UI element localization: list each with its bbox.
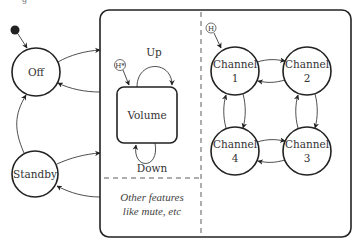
- caption-fragment: g: [22, 0, 27, 4]
- channel4-to-channel3-arrow: [257, 140, 285, 142]
- history-to-channel1-arrow: [214, 33, 221, 48]
- state-standby-label: Standby: [13, 168, 57, 180]
- state-diagram: g Off Standby H* Volume Up Down Other fe…: [0, 0, 362, 246]
- other-features-line2: like mute, etc: [123, 205, 181, 217]
- svg-text:Channel: Channel: [213, 58, 258, 70]
- state-channel-1[interactable]: Channel 1: [211, 47, 259, 95]
- state-standby[interactable]: Standby: [12, 151, 58, 197]
- svg-text:Channel: Channel: [285, 58, 330, 70]
- initial-state-dot-icon: [11, 26, 20, 35]
- channel1-to-channel4-arrow: [243, 94, 245, 128]
- svg-text:Channel: Channel: [213, 138, 258, 150]
- state-volume[interactable]: Volume: [117, 87, 177, 143]
- history-to-volume-arrow: [123, 70, 129, 85]
- channel3-to-channel2-arrow: [296, 95, 298, 128]
- svg-text:4: 4: [232, 152, 239, 164]
- standby-to-on-arrow: [57, 153, 100, 164]
- svg-text:H*: H*: [115, 62, 125, 70]
- svg-text:H: H: [208, 25, 214, 33]
- volume-down-loop-arrow: [136, 143, 156, 164]
- svg-text:3: 3: [304, 152, 311, 164]
- up-transition-label: Up: [146, 46, 162, 58]
- svg-text:2: 2: [304, 72, 311, 84]
- off-to-on-arrow: [58, 50, 100, 62]
- state-channel-3[interactable]: Channel 3: [283, 127, 331, 175]
- channel3-to-channel4-arrow: [258, 160, 285, 162]
- history-shallow-marker: H: [206, 23, 216, 33]
- state-off-label: Off: [28, 66, 46, 78]
- channel4-to-channel1-arrow: [224, 95, 226, 128]
- channel1-to-channel2-arrow: [257, 60, 285, 62]
- other-features-line1: Other features: [120, 191, 183, 203]
- channel2-to-channel1-arrow: [258, 80, 285, 82]
- state-channel-2[interactable]: Channel 2: [283, 47, 331, 95]
- state-volume-label: Volume: [126, 109, 166, 121]
- on-to-off-arrow: [58, 83, 100, 92]
- state-off[interactable]: Off: [12, 48, 60, 96]
- svg-text:Channel: Channel: [285, 138, 330, 150]
- initial-transition-arrow: [18, 34, 27, 48]
- svg-text:1: 1: [232, 72, 239, 84]
- standby-to-off-arrow: [17, 95, 26, 153]
- down-transition-label: Down: [137, 162, 168, 174]
- history-deep-marker: H*: [115, 60, 126, 71]
- channel2-to-channel3-arrow: [315, 94, 317, 128]
- volume-up-loop-arrow: [137, 66, 172, 87]
- state-channel-4[interactable]: Channel 4: [211, 127, 259, 175]
- on-to-standby-arrow: [57, 186, 100, 197]
